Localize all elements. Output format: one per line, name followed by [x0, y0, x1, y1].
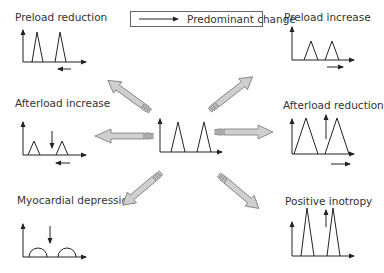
chart-positive-inotropy [292, 208, 354, 256]
chart-baseline [160, 119, 222, 152]
chart-afterload-increase [23, 122, 86, 163]
chart-afterload-reduction [292, 115, 354, 164]
block-arrow-to-afterload-reduction [215, 125, 273, 139]
block-arrow-to-afterload-increase [95, 129, 153, 143]
chart-preload-increase [292, 27, 354, 67]
block-arrow-to-positive-inotropy [215, 170, 264, 214]
chart-preload-reduction [23, 30, 86, 69]
block-arrow-to-preload-increase [206, 71, 257, 115]
block-arrow-to-preload-reduction [104, 75, 154, 117]
chart-myocardial-depression [23, 224, 86, 257]
block-arrow-to-myocardial-depression [118, 168, 165, 211]
